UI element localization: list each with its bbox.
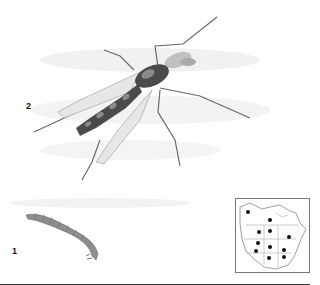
range-dots [246,210,291,260]
figure-label-adult: 2 [26,101,31,111]
figure-label-larva: 1 [12,246,17,256]
north-america-map [236,199,309,272]
adult-midge-illustration [0,0,320,200]
range-map [235,198,310,273]
